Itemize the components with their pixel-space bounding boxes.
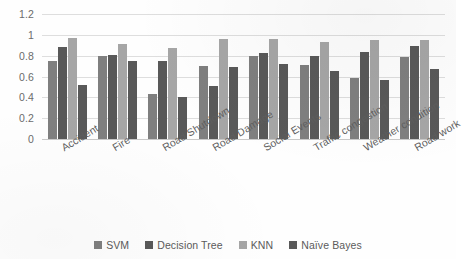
y-axis-tick-label: 1 [28,29,34,41]
legend-item-na-ve-bayes[interactable]: Naïve Bayes [289,239,362,251]
bar-knn-weather-condition [370,40,379,139]
y-axis-tick-label: 0.2 [19,112,34,124]
y-axis-tick-label: 0.6 [19,71,34,83]
legend-label: SVM [106,239,129,251]
bar-knn-traffic-congestion [320,42,329,139]
bar-knn-social-events [269,39,278,139]
legend-item-knn[interactable]: KNN [239,239,273,251]
y-axis-tick-label: 0.4 [19,91,34,103]
legend-swatch-icon [145,241,153,249]
bar-knn-road-shutdown [168,48,177,139]
legend-item-svm[interactable]: SVM [94,239,129,251]
bar-knn-road-work [420,40,429,139]
bar-decision-tree-fire [108,55,117,139]
bar-group [143,14,193,139]
bar-svm-accident [48,61,57,139]
bar-svm-fire [98,56,107,139]
bar-group [42,14,92,139]
plot-area [42,14,445,139]
legend-label: Naïve Bayes [301,239,362,251]
legend-swatch-icon [289,241,297,249]
y-axis-tick-labels: 00.20.40.60.811.2 [0,14,38,139]
bar-knn-road-damage [219,39,228,139]
legend-item-decision-tree[interactable]: Decision Tree [145,239,223,251]
bar-na-ve-bayes-fire [128,61,137,139]
bar-groups [42,14,445,139]
bar-group [92,14,142,139]
x-axis-category-labels: AccidentFireRoad ShutdownRoad DamageSoci… [42,139,445,219]
legend-swatch-icon [239,241,247,249]
bar-svm-road-shutdown [148,94,157,139]
bar-knn-accident [68,38,77,139]
y-axis-tick-label: 0.8 [19,50,34,62]
chart-legend: SVMDecision TreeKNNNaïve Bayes [0,239,456,251]
bar-knn-fire [118,44,127,139]
y-axis-tick-label: 1.2 [19,8,34,20]
bar-decision-tree-road-shutdown [158,61,167,139]
legend-label: KNN [251,239,273,251]
bar-decision-tree-accident [58,47,67,139]
y-axis-tick-label: 0 [28,133,34,145]
legend-label: Decision Tree [157,239,223,251]
legend-swatch-icon [94,241,102,249]
